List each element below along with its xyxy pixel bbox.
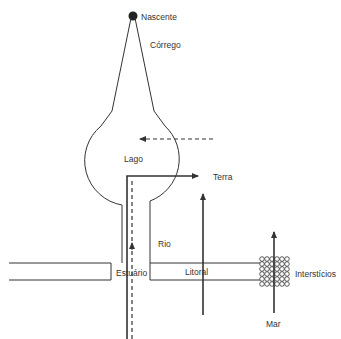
intersticios-label: Interstícios	[295, 269, 336, 279]
rio-to-terra-arrow	[127, 176, 198, 339]
corrego-label: Córrego	[150, 40, 181, 50]
nascente-label: Nascente	[141, 12, 177, 22]
lago-label: Lago	[124, 154, 143, 164]
hydrology-diagram: Nascente Córrego Lago Terra Rio Estuário…	[0, 0, 341, 339]
litoral-label: Litoral	[185, 267, 208, 277]
left-channel	[9, 263, 111, 280]
estuario-label: Estuário	[116, 268, 147, 278]
terra-label: Terra	[213, 172, 233, 182]
mar-label: Mar	[266, 319, 281, 329]
nascente-dot	[129, 12, 138, 21]
rio-label: Rio	[158, 239, 171, 249]
